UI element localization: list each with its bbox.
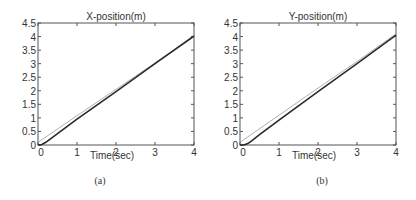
y-tick-label: 0.5 bbox=[224, 126, 238, 137]
x-tick-label: 1 bbox=[276, 147, 282, 158]
y-tick-label: 1 bbox=[232, 113, 238, 124]
y-tick-label: 0 bbox=[232, 140, 238, 151]
y-tick-label: 3.5 bbox=[22, 45, 36, 56]
panel-caption: (a) bbox=[94, 175, 105, 187]
x-tick-label: 3 bbox=[354, 147, 360, 158]
series-line-actual bbox=[38, 36, 194, 145]
y-tick-label: 0.5 bbox=[22, 126, 36, 137]
y-tick-label: 3 bbox=[30, 59, 36, 70]
series-line-actual bbox=[240, 35, 396, 145]
y-tick-label: 2.5 bbox=[224, 72, 238, 83]
series-line-reference bbox=[240, 34, 396, 143]
y-tick-label: 4.5 bbox=[224, 18, 238, 29]
x-tick-label: 4 bbox=[393, 147, 399, 158]
x-tick-label: 4 bbox=[191, 147, 197, 158]
chart-title: Y-position(m) bbox=[289, 11, 348, 22]
x-tick-label: 1 bbox=[74, 147, 80, 158]
y-tick-label: 1.5 bbox=[224, 99, 238, 110]
figure: 00.511.522.533.544.501234X-position(m)Ti… bbox=[0, 0, 416, 200]
panel-caption: (b) bbox=[316, 175, 328, 187]
y-tick-label: 4 bbox=[232, 32, 238, 43]
chart-title: X-position(m) bbox=[86, 11, 145, 22]
y-tick-label: 1 bbox=[30, 113, 36, 124]
x-axis-label: Time(sec) bbox=[292, 150, 336, 161]
y-tick-label: 3.5 bbox=[224, 45, 238, 56]
x-tick-label: 3 bbox=[152, 147, 158, 158]
y-tick-label: 1.5 bbox=[22, 99, 36, 110]
x-tick-label: 0 bbox=[240, 147, 246, 158]
y-tick-label: 2 bbox=[30, 86, 36, 97]
y-tick-label: 4.5 bbox=[22, 18, 36, 29]
x-axis-label: Time(sec) bbox=[90, 150, 134, 161]
y-tick-label: 4 bbox=[30, 32, 36, 43]
plot-frame bbox=[240, 23, 396, 145]
y-tick-label: 2.5 bbox=[22, 72, 36, 83]
x-tick-label: 0 bbox=[38, 147, 44, 158]
y-tick-label: 2 bbox=[232, 86, 238, 97]
y-tick-label: 0 bbox=[30, 140, 36, 151]
y-tick-label: 3 bbox=[232, 59, 238, 70]
